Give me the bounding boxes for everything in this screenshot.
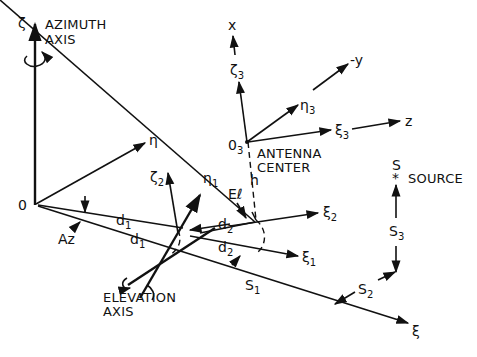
o3-label: 03 (228, 137, 243, 156)
origin-label: 0 (18, 197, 27, 213)
xi2-label: ξ2 (323, 204, 337, 223)
eta3-label: η3 (300, 97, 315, 116)
d1-upper-label: d1 (116, 212, 131, 231)
antenna-geometry-diagram: ζ AZIMUTH AXIS 0 η ξ Az d1 d1 ζ2 η1 ELEV… (0, 0, 477, 357)
d2-upper-label: d2 (218, 216, 233, 235)
el-label: Eℓ (228, 186, 243, 202)
elevation-axis-label-2: AXIS (103, 304, 134, 319)
xi3-label: ξ3 (335, 122, 349, 141)
minus-y-label: -y (350, 52, 363, 68)
antenna-center-label-2: CENTER (257, 160, 310, 175)
xi-label: ξ (412, 323, 420, 339)
s3-label: S3 (389, 223, 404, 242)
z-label: z (405, 113, 412, 129)
antenna-center-label-1: ANTENNA (257, 146, 322, 161)
zeta2-label: ζ2 (150, 169, 164, 188)
azimuth-axis: ζ AZIMUTH AXIS (18, 15, 106, 205)
antenna-frame: h 03 ANTENNA CENTER ζ3 x η3 -y ξ3 z (228, 17, 412, 220)
azimuth-axis-label-1: AZIMUTH (45, 17, 106, 32)
d2-lower-label: d2 (218, 239, 233, 258)
xi1-label: ξ1 (302, 249, 316, 268)
s2-label: S2 (358, 281, 373, 300)
source-star: * (392, 170, 399, 186)
elevation-axis-label-1: ELEVATION (103, 290, 176, 305)
base-frame: 0 η ξ Az d1 d1 (18, 132, 420, 339)
zeta3-label: ζ3 (230, 62, 244, 81)
d1-lower-label: d1 (130, 231, 145, 250)
source-label: SOURCE (408, 171, 463, 186)
x-label: x (228, 17, 236, 33)
s1-label: S1 (245, 277, 260, 296)
azimuth-axis-label-2: AXIS (45, 32, 76, 47)
az-label: Az (58, 231, 75, 247)
